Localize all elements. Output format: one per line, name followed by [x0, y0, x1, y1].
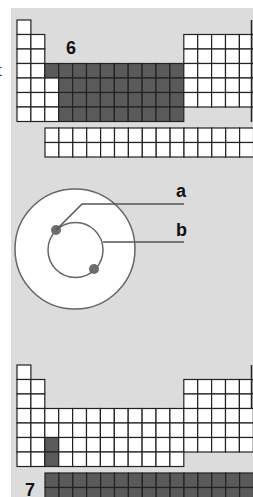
- table-cell: [100, 409, 114, 424]
- table-cell: [240, 488, 253, 497]
- table-cell: [45, 473, 59, 488]
- table-cell: [114, 452, 128, 467]
- table-cell: [115, 143, 129, 158]
- table-cell: [73, 128, 87, 143]
- table-cell: [170, 78, 184, 93]
- table-cell: [142, 488, 156, 497]
- table-cell: [87, 423, 101, 438]
- table-cell: [128, 128, 142, 143]
- table-cell: [45, 423, 59, 438]
- table-cell: [114, 438, 128, 453]
- table-cell: [73, 78, 87, 93]
- table-cell: [212, 473, 226, 488]
- table-cell: [142, 473, 156, 488]
- table-cell: [198, 423, 212, 438]
- table-cell: [114, 107, 128, 122]
- periodic-table-bottom: [17, 365, 253, 497]
- table-cell: [73, 409, 87, 424]
- table-cell: [128, 409, 142, 424]
- table-cell: [156, 93, 170, 108]
- table-cell: [31, 409, 45, 424]
- table-cell: [128, 78, 142, 93]
- table-cell: [184, 380, 198, 395]
- table-cell: [184, 78, 198, 93]
- table-cell: [59, 488, 73, 497]
- table-cell: [184, 438, 198, 453]
- table-cell: [128, 423, 142, 438]
- table-cell: [17, 64, 31, 79]
- table-cell: [87, 488, 101, 497]
- table-cell: [170, 488, 184, 497]
- table-cell: [31, 452, 45, 467]
- table-cell: [101, 143, 115, 158]
- table-cell: [114, 409, 128, 424]
- table-cell: [17, 423, 31, 438]
- table-cell: [212, 78, 226, 93]
- table-cell: [17, 380, 31, 395]
- table-cell: [198, 438, 212, 453]
- table-cell: [101, 488, 115, 497]
- table-cell: [73, 143, 87, 158]
- table-cell: [198, 409, 212, 424]
- table-cell: [156, 143, 170, 158]
- table-cell: [114, 64, 128, 79]
- table-cell: [17, 452, 31, 467]
- table-cell: [240, 128, 253, 143]
- table-cell: [239, 423, 253, 438]
- table-cell: [226, 35, 240, 50]
- table-cell: [226, 394, 240, 409]
- outer-shell: [15, 189, 135, 309]
- table-cell: [212, 143, 226, 158]
- table-cell: [226, 409, 240, 424]
- table-cell: [115, 473, 129, 488]
- table-cell: [198, 128, 212, 143]
- table-cell: [240, 473, 253, 488]
- table-cell: [198, 380, 212, 395]
- table-cell: [142, 452, 156, 467]
- table-cell: [87, 128, 101, 143]
- diagram-canvas: [0, 0, 253, 497]
- table-cell: [17, 93, 31, 108]
- table-cell: [212, 488, 226, 497]
- table-cell: [45, 452, 59, 467]
- table-cell: [226, 438, 240, 453]
- table-cell: [17, 35, 31, 50]
- table-cell: [212, 423, 226, 438]
- label-7: 7: [25, 480, 35, 497]
- table-cell: [240, 143, 253, 158]
- table-cell: [87, 438, 101, 453]
- label-6: 6: [66, 38, 76, 59]
- table-cell: [142, 438, 156, 453]
- table-cell: [73, 452, 87, 467]
- table-cell: [170, 93, 184, 108]
- table-cell: [128, 473, 142, 488]
- table-cell: [198, 49, 212, 64]
- table-cell: [198, 93, 212, 108]
- table-cell: [17, 409, 31, 424]
- table-cell: [226, 64, 240, 79]
- table-cell: [17, 394, 31, 409]
- table-cell: [142, 128, 156, 143]
- table-cell: [31, 438, 45, 453]
- table-cell: [87, 64, 101, 79]
- table-cell: [184, 394, 198, 409]
- electron-icon: [89, 264, 99, 274]
- table-cell: [170, 423, 184, 438]
- table-cell: [101, 473, 115, 488]
- table-cell: [45, 128, 59, 143]
- table-cell: [59, 107, 73, 122]
- table-cell: [156, 128, 170, 143]
- table-cell: [101, 128, 115, 143]
- label-a: a: [176, 181, 186, 202]
- table-cell: [114, 78, 128, 93]
- periodic-table-top: [17, 20, 253, 157]
- table-cell: [31, 64, 45, 79]
- table-cell: [87, 143, 101, 158]
- table-cell: [170, 107, 184, 122]
- table-cell: [100, 107, 114, 122]
- table-cell: [87, 409, 101, 424]
- table-cell: [128, 452, 142, 467]
- table-cell: [45, 64, 59, 79]
- table-cell: [184, 93, 198, 108]
- table-cell: [226, 380, 240, 395]
